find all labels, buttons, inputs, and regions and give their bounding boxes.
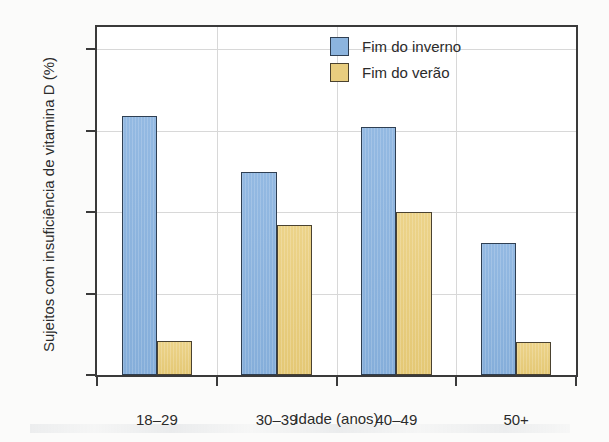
y-axis-tick: [86, 130, 97, 132]
legend-swatch-winter: [330, 37, 349, 56]
chart-figure: Sujeitos com insuficiência de vitamina D…: [0, 0, 609, 442]
x-axis-tick: [96, 375, 98, 386]
legend-item-winter: Fim do inverno: [330, 33, 461, 59]
legend-item-summer: Fim do verão: [330, 59, 461, 85]
bar-summer: [516, 342, 551, 375]
x-axis-tick-label: 40–49: [336, 411, 456, 428]
y-axis-tick: [86, 293, 97, 295]
bar-winter: [481, 243, 516, 375]
bar-winter: [122, 116, 157, 375]
x-axis-tick-label: 30–39: [217, 411, 337, 428]
bar-summer: [396, 212, 431, 375]
bar-summer: [277, 225, 312, 375]
x-axis-tick-label: 50+: [456, 411, 576, 428]
y-axis-title: Sujeitos com insuficiência de vitamina D…: [40, 15, 57, 395]
bar-summer: [157, 341, 192, 375]
y-axis-tick: [86, 48, 97, 50]
x-axis-tick: [575, 375, 577, 386]
x-gridline: [217, 27, 218, 375]
x-axis-tick: [455, 375, 457, 386]
legend-label-summer: Fim do verão: [362, 64, 450, 81]
x-axis-tick: [336, 375, 338, 386]
legend-swatch-summer: [330, 63, 349, 82]
x-axis-tick: [216, 375, 218, 386]
legend-label-winter: Fim do inverno: [362, 38, 461, 55]
y-axis-tick: [86, 211, 97, 213]
chart-legend: Fim do inverno Fim do verão: [330, 33, 461, 85]
bar-winter: [241, 172, 276, 375]
x-axis-tick-label: 18–29: [97, 411, 217, 428]
bar-winter: [361, 127, 396, 375]
